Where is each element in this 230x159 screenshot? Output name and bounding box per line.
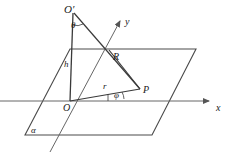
label-plane-alpha: α <box>31 126 36 135</box>
label-o-prime: O′ <box>64 4 74 15</box>
y-axis-line <box>50 21 120 152</box>
plane-alpha-outline <box>25 49 196 135</box>
label-y-axis: y <box>125 17 129 27</box>
label-theta: θ <box>71 21 75 30</box>
label-phi: φ <box>114 91 119 100</box>
label-height: h <box>64 60 69 69</box>
o-prime-to-p-segment <box>74 13 140 89</box>
geometry-diagram: O′ θ y R h r φ P O x α <box>0 0 230 159</box>
label-x-axis: x <box>216 103 220 113</box>
label-point-p: P <box>143 85 149 95</box>
label-radius: r <box>103 82 107 91</box>
phi-angle-arc <box>122 92 124 99</box>
label-origin: O <box>63 103 70 113</box>
label-point-r: R <box>113 52 119 62</box>
diagram-canvas <box>0 0 230 159</box>
